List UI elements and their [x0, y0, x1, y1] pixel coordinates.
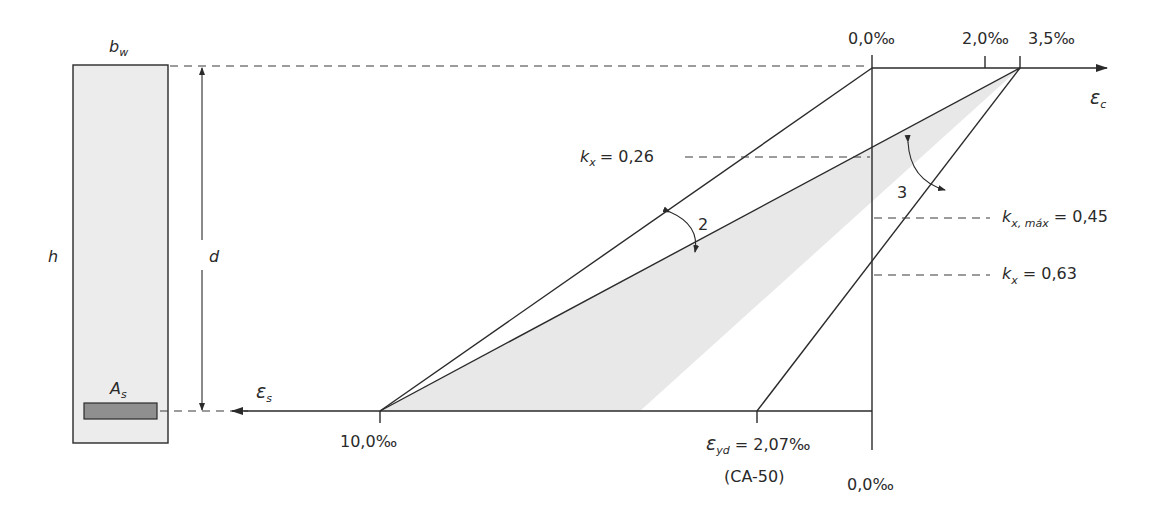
concrete-strain-label: εc — [1090, 86, 1106, 111]
steel-reinforcement — [84, 403, 157, 419]
bottom-tick-10: 10,0‰ — [340, 432, 397, 451]
kx-063-label: kx= 0,63 — [1002, 264, 1077, 287]
strain-domain-diagram: bw h As d 2 3 0,0‰ 2,0‰ 3,5‰ εc εs kx= 0… — [0, 0, 1155, 513]
width-label: bw — [109, 37, 128, 59]
steel-strain-label: εs — [256, 380, 272, 405]
beam-cross-section: bw h As — [48, 37, 168, 443]
yield-strain-label: εyd= 2,07‰ — [706, 432, 810, 457]
kx-max-label: kx, máx= 0,45 — [1002, 207, 1108, 230]
bottom-tick-0: 0,0‰ — [847, 475, 894, 494]
top-tick-0: 0,0‰ — [848, 29, 895, 48]
height-label: h — [48, 247, 58, 266]
domain-3-label: 3 — [897, 183, 907, 202]
yield-note: (CA-50) — [724, 467, 784, 486]
kx-026-label: kx= 0,26 — [580, 147, 654, 169]
depth-label: d — [209, 247, 220, 266]
top-tick-2: 2,0‰ — [962, 29, 1009, 48]
domain-boundary-2-3 — [380, 68, 1020, 411]
depth-dimension: d — [202, 68, 220, 410]
domain-2-label: 2 — [698, 215, 708, 234]
top-tick-3-5: 3,5‰ — [1028, 29, 1075, 48]
